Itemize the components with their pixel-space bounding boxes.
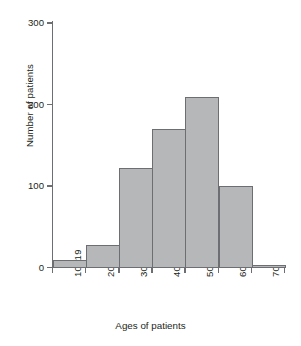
y-tick-label-0: 0 — [4, 262, 44, 273]
bar-30-39 — [119, 168, 153, 268]
y-tick-100 — [47, 185, 52, 186]
x-axis-title: Ages of patients — [0, 320, 301, 331]
y-tick-200 — [47, 104, 52, 105]
x-tick-edge-0 — [52, 268, 53, 273]
histogram-figure: Number of patients 0 100 200 300 10–19 2… — [0, 0, 301, 346]
bar-70 — [252, 265, 286, 268]
x-tick-edge-2 — [118, 268, 119, 273]
x-tick-edge-1 — [85, 268, 86, 273]
bar-60-69 — [219, 186, 253, 268]
x-tick-edge-5 — [218, 268, 219, 273]
bar-20-29 — [86, 245, 120, 268]
y-tick-label-100: 100 — [4, 180, 44, 191]
x-tick-edge-4 — [184, 268, 185, 273]
x-tick-edge-7 — [284, 268, 285, 273]
y-tick-300 — [47, 22, 52, 23]
bar-50-59 — [185, 97, 219, 268]
bar-10-19 — [53, 260, 87, 268]
y-tick-label-300: 300 — [4, 17, 44, 28]
x-tick-edge-3 — [151, 268, 152, 273]
bar-40-49 — [152, 129, 186, 268]
x-tick-edge-6 — [251, 268, 252, 273]
plot-area — [53, 22, 285, 268]
y-tick-label-200: 200 — [4, 99, 44, 110]
